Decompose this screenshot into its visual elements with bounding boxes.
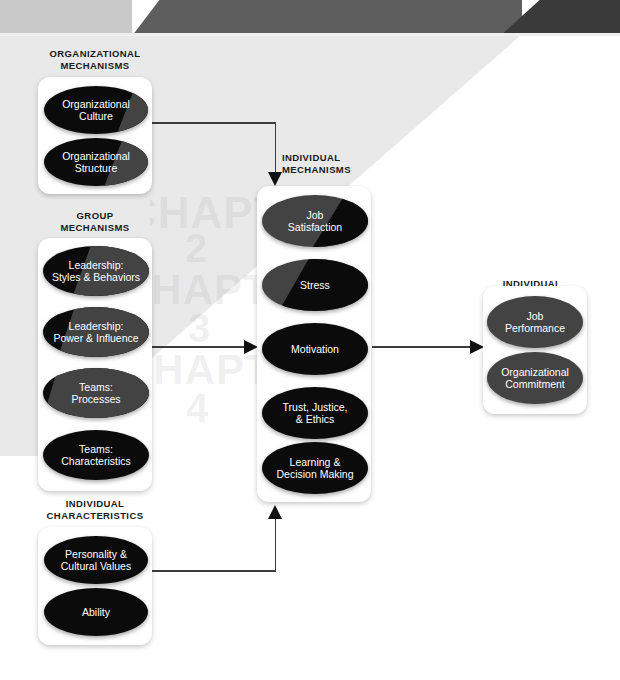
node-label: Learning & Decision Making <box>272 456 357 481</box>
node-job-satisfaction[interactable]: Job Satisfaction <box>262 195 368 247</box>
node-ability[interactable]: Ability <box>44 588 148 636</box>
node-organizational-structure[interactable]: Organizational Structure <box>44 138 148 186</box>
node-label: Organizational Commitment <box>497 366 573 391</box>
watermark-line: 3 <box>188 306 211 351</box>
node-label: Stress <box>296 279 334 292</box>
node-personality-cultural-values[interactable]: Personality & Cultural Values <box>44 536 148 584</box>
node-leadership-power-influence[interactable]: Leadership: Power & Influence <box>43 307 149 357</box>
group-box-individual-mechanisms: Job Satisfaction Stress Motivation Trust… <box>257 186 371 502</box>
banner-bottom-rule <box>0 33 620 36</box>
group-box-organizational-mechanisms: Organizational Culture Organizational St… <box>38 77 152 194</box>
node-trust-justice-ethics[interactable]: Trust, Justice, & Ethics <box>262 387 368 439</box>
node-label: Job Satisfaction <box>284 209 346 234</box>
node-job-performance[interactable]: Job Performance <box>487 296 583 348</box>
node-label: Trust, Justice, & Ethics <box>279 401 352 426</box>
node-label: Leadership: Power & Influence <box>49 320 142 345</box>
node-teams-characteristics[interactable]: Teams: Characteristics <box>43 430 149 480</box>
node-label: Ability <box>78 606 114 619</box>
arrow-group-to-individual <box>244 340 258 354</box>
node-organizational-commitment[interactable]: Organizational Commitment <box>487 352 583 404</box>
diagram-canvas: CHAPTER 2 CHAPTER 3 CHAPTER 4 ORGANIZATI… <box>0 0 620 680</box>
watermark-line: 2 <box>185 226 208 271</box>
node-learning-decision-making[interactable]: Learning & Decision Making <box>262 442 368 494</box>
group-title-group-mechanisms: GROUP MECHANISMS <box>35 210 155 233</box>
node-label: Job Performance <box>501 310 569 335</box>
node-teams-processes[interactable]: Teams: Processes <box>43 368 149 418</box>
group-title-organizational-mechanisms: ORGANIZATIONAL MECHANISMS <box>35 48 155 71</box>
connector-org-to-individual-vertical <box>275 122 277 177</box>
arrow-characteristics-to-individual <box>268 505 282 519</box>
top-banner <box>0 0 620 36</box>
group-title-individual-mechanisms: INDIVIDUAL MECHANISMS <box>282 152 392 175</box>
node-label: Leadership: Styles & Behaviors <box>48 259 144 284</box>
connector-group-to-individual <box>150 346 246 348</box>
arrow-org-to-individual <box>268 172 282 186</box>
node-motivation[interactable]: Motivation <box>262 323 368 375</box>
node-label: Organizational Structure <box>58 150 134 175</box>
node-leadership-styles-behaviors[interactable]: Leadership: Styles & Behaviors <box>43 246 149 296</box>
group-title-individual-characteristics: INDIVIDUAL CHARACTERISTICS <box>30 498 160 521</box>
watermark-line: 4 <box>186 386 209 431</box>
node-stress[interactable]: Stress <box>262 259 368 311</box>
group-box-individual-outcomes: Job Performance Organizational Commitmen… <box>483 286 587 414</box>
node-label: Organizational Culture <box>58 98 134 123</box>
node-label: Motivation <box>287 343 343 356</box>
arrow-individual-to-outcomes <box>470 340 484 354</box>
node-label: Teams: Processes <box>67 381 124 406</box>
group-box-group-mechanisms: Leadership: Styles & Behaviors Leadershi… <box>38 238 152 491</box>
connector-characteristics-vertical <box>275 518 277 571</box>
node-organizational-culture[interactable]: Organizational Culture <box>44 86 148 134</box>
group-box-individual-characteristics: Personality & Cultural Values Ability <box>38 527 152 645</box>
connector-characteristics-horizontal <box>150 570 276 572</box>
node-label: Teams: Characteristics <box>57 443 134 468</box>
node-label: Personality & Cultural Values <box>57 548 135 573</box>
connector-org-to-individual-horizontal <box>150 122 276 124</box>
banner-mid-gray <box>132 0 522 36</box>
connector-individual-to-outcomes <box>372 346 474 348</box>
banner-left-light <box>0 0 132 36</box>
